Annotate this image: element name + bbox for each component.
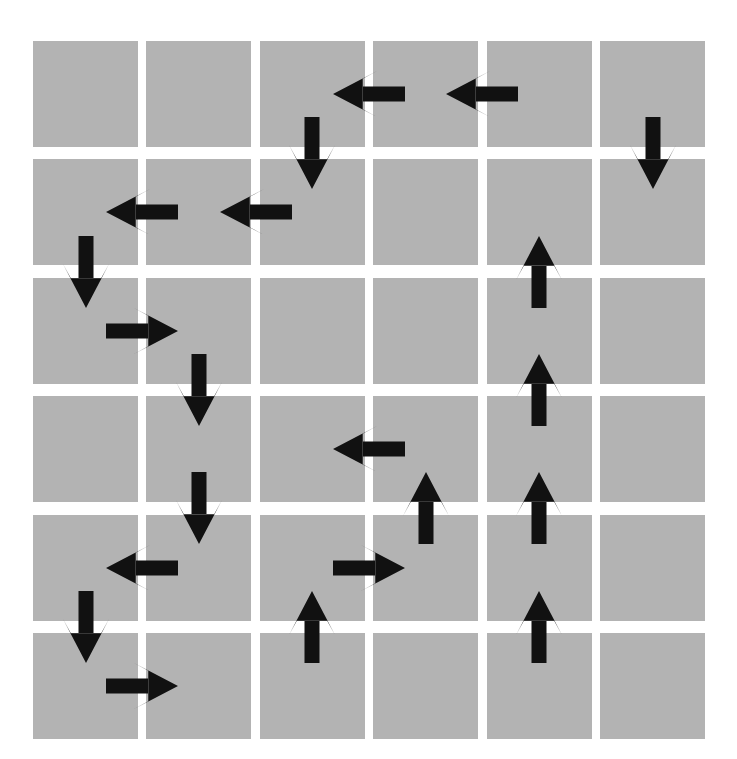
arrow-r4r5-c2-up-icon (289, 591, 335, 663)
arrow-r5-c0c1-right-icon (106, 663, 178, 709)
arrow-r4r5-c0-down-icon (63, 591, 109, 663)
arrow-r0r1-c5-down-icon (630, 117, 676, 189)
arrow-r1-c1c2-left-icon (220, 189, 292, 235)
arrow-r4-c0c1-left-icon (106, 545, 178, 591)
arrow-r4-c2c3-right-icon (333, 545, 405, 591)
arrow-r1r2-c0-down-icon (63, 236, 109, 308)
arrow-r1r2-c4-up-icon (516, 236, 562, 308)
arrow-r0-c2c3-left-icon (333, 71, 405, 117)
arrow-r2r3-c1-down-icon (176, 354, 222, 426)
arrow-r2-c0c1-right-icon (106, 308, 178, 354)
arrow-layer (0, 0, 737, 759)
arrow-r1-c0c1-left-icon (106, 189, 178, 235)
diagram-canvas (0, 0, 737, 759)
arrow-r3-c2c3-left-icon (333, 426, 405, 472)
arrow-r0r1-c2-down-icon (289, 117, 335, 189)
arrow-r3r4-c3-up-icon (403, 472, 449, 544)
arrow-r4r5-c4-up-icon (516, 591, 562, 663)
arrow-r3r4-c4-up-icon (516, 472, 562, 544)
arrow-r0-c3c4-left-icon (446, 71, 518, 117)
arrow-r3r4-c1-down-icon (176, 472, 222, 544)
arrow-r2r3-c4-up-icon (516, 354, 562, 426)
